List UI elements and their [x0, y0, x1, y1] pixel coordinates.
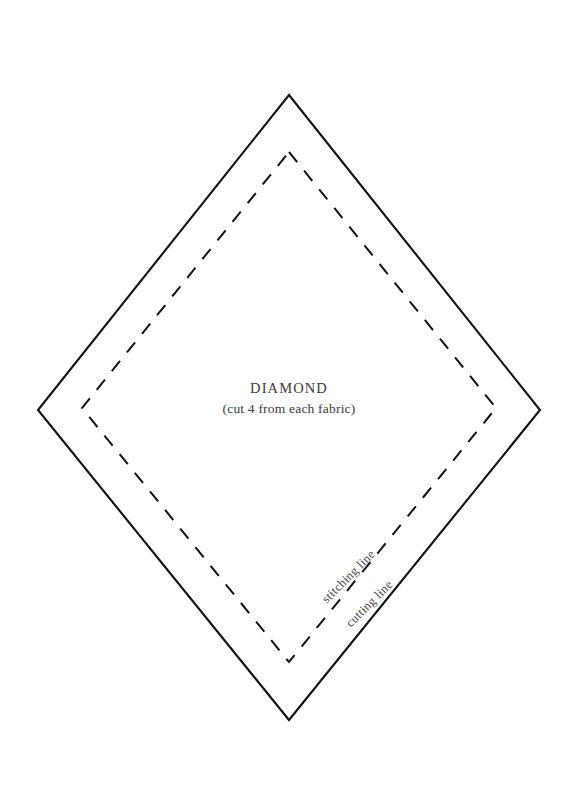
page-title: DIAMOND — [0, 380, 578, 397]
template-sheet: DIAMOND (cut 4 from each fabric) stitchi… — [0, 0, 578, 801]
cut-instruction-label: (cut 4 from each fabric) — [0, 401, 578, 417]
